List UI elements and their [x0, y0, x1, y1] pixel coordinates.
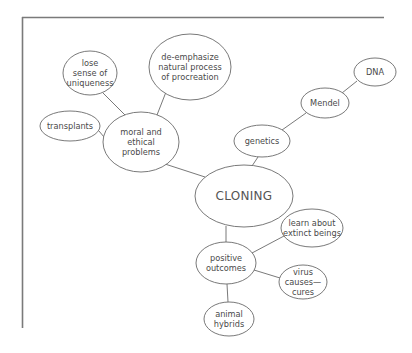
edge-moral-procreation	[157, 92, 166, 115]
edge-mendel-dna	[342, 81, 357, 93]
node-ellipse	[234, 125, 290, 157]
node-mendel	[301, 88, 349, 118]
node-virus	[279, 265, 327, 299]
node-ellipse	[40, 111, 100, 141]
node-ellipse	[354, 58, 396, 86]
node-dna	[354, 58, 396, 86]
node-ellipse	[204, 302, 254, 336]
edge-moral-uniqueness	[103, 93, 125, 115]
nodes	[40, 34, 396, 336]
edge-cloning-genetics	[252, 157, 258, 166]
edge-cloning-moral	[165, 164, 205, 177]
node-hybrids	[204, 302, 254, 336]
node-cloning	[195, 165, 293, 227]
edge-genetics-mendel	[282, 113, 306, 130]
node-procreation	[149, 34, 231, 100]
node-transplants	[40, 111, 100, 141]
node-ellipse	[103, 112, 179, 172]
node-ellipse	[195, 165, 293, 227]
node-ellipse	[63, 51, 117, 95]
node-ellipse	[281, 209, 343, 247]
node-extinct	[281, 209, 343, 247]
edge-positive-extinct	[252, 236, 284, 253]
node-ellipse	[149, 34, 231, 100]
node-ellipse	[279, 265, 327, 299]
node-moral	[103, 112, 179, 172]
concept-map	[0, 0, 412, 353]
node-positive	[196, 242, 256, 284]
node-ellipse	[301, 88, 349, 118]
edge-positive-hybrids	[227, 284, 228, 302]
node-uniqueness	[63, 51, 117, 95]
edge-positive-virus	[254, 270, 280, 278]
node-genetics	[234, 125, 290, 157]
node-ellipse	[196, 242, 256, 284]
